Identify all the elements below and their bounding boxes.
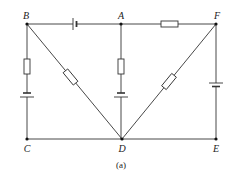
node-f <box>214 22 217 25</box>
label-e: E <box>212 143 219 154</box>
label-f: F <box>213 10 221 21</box>
branch-b-d <box>27 24 122 139</box>
resistor <box>118 59 124 74</box>
branch-a-f <box>121 21 216 27</box>
node-b <box>25 22 28 25</box>
figure-caption: (a) <box>116 160 126 170</box>
node-d <box>120 137 123 140</box>
node-c <box>25 137 28 140</box>
branch-a-d <box>114 24 128 139</box>
branch-b-c <box>20 24 34 139</box>
node-e <box>214 137 217 140</box>
resistor <box>24 59 30 74</box>
branch-f-d <box>122 24 216 139</box>
resistor <box>161 21 178 27</box>
label-c: C <box>24 143 31 154</box>
label-b: B <box>23 10 29 21</box>
branch-b-a <box>26 18 121 30</box>
node-a <box>119 22 122 25</box>
resistor <box>162 73 177 89</box>
resistor <box>63 69 78 85</box>
branch-f-e <box>209 24 223 139</box>
circuit-diagram: B A F C D E (a) <box>0 0 237 177</box>
label-a: A <box>117 10 125 21</box>
label-d: D <box>117 143 126 154</box>
